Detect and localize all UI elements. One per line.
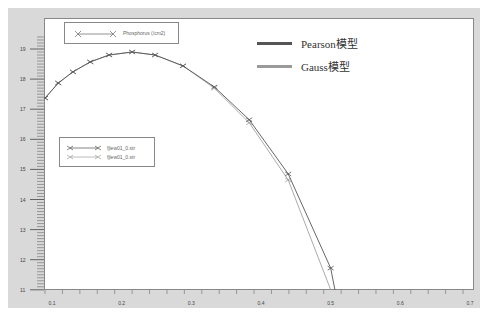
legend-top: Phosphorus (/cm2) <box>64 22 179 44</box>
x-tick-label: 0.3 <box>188 300 195 306</box>
x-tick-label: 0.7 <box>467 300 474 306</box>
x-tick-label: 0.1 <box>49 300 56 306</box>
y-tick-label: 11 <box>20 287 25 293</box>
gauss-label: Gauss模型 <box>301 58 350 74</box>
x-tick-label: 0.2 <box>118 300 125 306</box>
y-tick-label: 12 <box>20 257 26 263</box>
y-tick-label: 16 <box>20 136 26 142</box>
series-line <box>42 50 335 290</box>
data-point-marker-icon <box>70 70 76 74</box>
data-point-marker-icon <box>55 81 61 85</box>
y-tick-label: 19 <box>20 46 26 52</box>
legend-series-1-label: fjlew01_0.str <box>107 145 135 151</box>
data-point-marker-icon <box>246 118 252 122</box>
data-point-marker-icon <box>180 64 186 68</box>
x-tick-label: 0.4 <box>258 300 265 306</box>
x-tick-label: 0.5 <box>327 300 334 306</box>
y-tick-label: 18 <box>20 76 26 82</box>
series-line <box>42 50 331 290</box>
legend-series-2-label: fjlew01_0.str <box>107 154 135 160</box>
y-tick-label: 15 <box>20 166 26 172</box>
y-tick-label: 17 <box>20 106 26 112</box>
gauss-line-swatch <box>257 65 292 68</box>
x-tick-label: 0.6 <box>397 300 404 306</box>
legend-series: fjlew01_0.str fjlew01_0.str <box>59 137 155 167</box>
data-point-marker-icon <box>42 96 48 100</box>
y-tick-label: 13 <box>20 227 26 233</box>
pearson-line-swatch <box>257 42 292 45</box>
legend-series-markers-icon <box>66 138 126 166</box>
data-point-marker-icon <box>87 60 93 64</box>
pearson-label: Pearson模型 <box>301 35 358 51</box>
data-point-marker-icon <box>285 172 291 176</box>
legend-top-label: Phosphorus (/cm2) <box>123 30 165 36</box>
y-tick-label: 14 <box>20 197 26 203</box>
